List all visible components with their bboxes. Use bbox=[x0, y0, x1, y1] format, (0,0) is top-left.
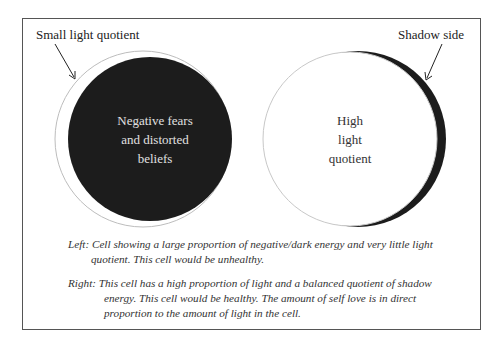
right-cell-text-line: light bbox=[300, 130, 400, 149]
left-cell-text: Negative fears and distorted beliefs bbox=[95, 111, 215, 168]
caption-right-key: Right: bbox=[68, 276, 96, 291]
right-callout-label: Shadow side bbox=[398, 27, 464, 43]
left-callout-label: Small light quotient bbox=[36, 27, 139, 43]
left-cell-text-line: Negative fears bbox=[95, 111, 215, 130]
right-cell-text-line: High bbox=[300, 111, 400, 130]
caption-left-line: Cell showing a large proportion of negat… bbox=[92, 237, 468, 252]
caption-right: Right: This cell has a high proportion o… bbox=[68, 276, 468, 321]
caption-left-key: Left: bbox=[68, 237, 89, 252]
left-callout-arrow-icon bbox=[55, 44, 75, 79]
right-cell-text-line: quotient bbox=[300, 149, 400, 168]
right-cell-text: High light quotient bbox=[300, 111, 400, 168]
caption-left: Left: Cell showing a large proportion of… bbox=[68, 237, 468, 267]
left-cell-text-line: and distorted bbox=[95, 130, 215, 149]
right-callout-arrow-icon bbox=[425, 44, 442, 80]
left-cell-text-line: beliefs bbox=[95, 149, 215, 168]
caption-right-line: energy. This cell would be healthy. The … bbox=[68, 291, 468, 306]
caption-right-line: proportion to the amount of light in the… bbox=[68, 306, 468, 321]
caption-right-line: This cell has a high proportion of light… bbox=[99, 276, 468, 291]
caption-left-line: quotient. This cell would be unhealthy. bbox=[68, 252, 468, 267]
